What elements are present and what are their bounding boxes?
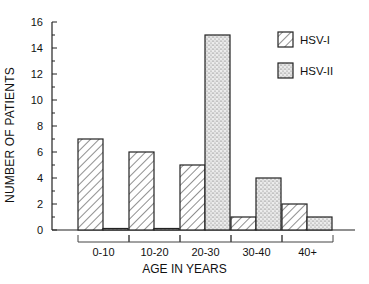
bar-hsv-ii-0-10 [103,229,128,231]
legend-label-hsv-1: HSV-I [300,34,330,46]
y-tick-label: 14 [31,42,43,54]
bar-hsv-ii-10-20 [154,229,179,231]
bars [78,35,332,230]
y-tick-label: 12 [31,68,43,80]
x-axis-label: AGE IN YEARS [0,262,369,276]
y-tick-label: 4 [37,172,43,184]
x-tick-label: 10-20 [140,246,168,258]
bar-hsv-ii-30-40 [256,178,281,230]
y-tick-label: 6 [37,146,43,158]
x-tick-label: 20-30 [191,246,219,258]
y-tick-label: 16 [31,16,43,28]
bar-hsv-ii-20-30 [205,35,230,230]
y-axis-label: NUMBER OF PATIENTS [3,35,17,235]
legend [278,32,293,78]
x-tick-label: 30-40 [242,246,270,258]
bar-hsv-ii-40+ [307,217,332,230]
bar-hsv-i-20-30 [180,165,205,230]
x-tick-labels: 0-1010-2020-3030-4040+ [78,235,333,258]
bar-hsv-i-30-40 [231,217,256,230]
bar-hsv-i-40+ [282,204,307,230]
y-tick-label: 8 [37,120,43,132]
y-tick-label: 10 [31,94,43,106]
y-tick-label: 2 [37,198,43,210]
y-tick-label: 0 [37,224,43,236]
x-tick-label: 0-10 [92,246,114,258]
bar-hsv-i-0-10 [78,139,103,230]
bar-hsv-i-10-20 [129,152,154,230]
x-tick-label: 40+ [298,246,317,258]
legend-label-hsv-2: HSV-II [300,65,333,77]
legend-swatch-hsv-1-icon [278,32,293,47]
legend-swatch-hsv-2-icon [278,63,293,78]
